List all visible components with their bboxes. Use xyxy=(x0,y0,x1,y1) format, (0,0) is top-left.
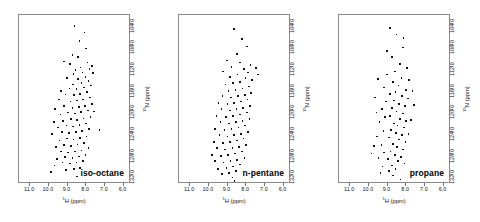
data-point xyxy=(70,101,72,103)
data-point xyxy=(73,139,75,141)
data-point xyxy=(402,113,404,115)
panel-label: n-pentane xyxy=(242,168,284,178)
data-point xyxy=(221,173,223,175)
data-point xyxy=(66,125,68,127)
data-point xyxy=(374,97,376,99)
data-point xyxy=(63,105,65,107)
data-point xyxy=(89,68,91,70)
data-point xyxy=(247,72,249,74)
data-point xyxy=(376,136,378,138)
data-point xyxy=(87,110,89,112)
y-tick-label: 132.0 xyxy=(289,170,295,184)
data-point xyxy=(220,121,222,123)
data-point xyxy=(235,121,237,123)
y-tick-label: 104.0 xyxy=(449,19,455,33)
x-tick-label: 9.0 xyxy=(63,186,71,192)
data-point xyxy=(66,138,68,140)
data-point xyxy=(60,151,62,153)
data-point xyxy=(81,130,83,132)
panel-label: propane xyxy=(410,168,444,178)
data-point xyxy=(62,162,64,164)
data-point xyxy=(401,77,403,79)
spectrum-panel-iso-octane: iso-octane11.010.09.08.07.06.01H (ppm)10… xyxy=(0,0,160,222)
data-point xyxy=(76,100,78,102)
data-point xyxy=(413,104,415,106)
data-point xyxy=(404,163,406,165)
x-axis-tick-labels: 11.010.09.08.07.06.0 xyxy=(320,186,468,196)
data-point xyxy=(403,127,405,129)
data-point xyxy=(211,154,213,156)
data-point xyxy=(243,138,245,140)
data-point xyxy=(239,81,241,83)
data-point xyxy=(392,143,394,145)
data-point xyxy=(400,156,402,158)
data-point xyxy=(77,78,79,80)
y-axis-title: 15N (ppm) xyxy=(302,14,312,183)
data-point xyxy=(67,152,69,154)
data-point xyxy=(250,64,252,66)
data-point xyxy=(377,78,379,80)
data-point xyxy=(84,32,86,34)
data-point xyxy=(401,134,403,136)
data-point xyxy=(85,154,87,156)
data-point xyxy=(59,140,61,142)
y-tick-label: 116.0 xyxy=(129,84,135,98)
data-point xyxy=(383,130,385,132)
data-point xyxy=(218,102,220,104)
data-point xyxy=(61,131,63,133)
data-point xyxy=(378,157,380,159)
data-point xyxy=(83,118,85,120)
data-point xyxy=(398,85,400,87)
x-tick-label: 11.0 xyxy=(24,186,35,192)
data-point xyxy=(225,84,227,86)
data-point xyxy=(407,98,409,100)
data-point xyxy=(63,144,65,146)
data-point xyxy=(216,115,218,117)
data-point xyxy=(85,48,87,50)
data-point xyxy=(54,108,56,110)
data-point xyxy=(50,171,52,173)
data-point xyxy=(213,141,215,143)
data-point xyxy=(249,118,251,120)
y-tick-label: 124.0 xyxy=(449,127,455,141)
data-point xyxy=(410,119,412,121)
data-point xyxy=(72,126,74,128)
data-point xyxy=(79,40,81,42)
data-point xyxy=(399,63,401,65)
data-point xyxy=(92,72,94,74)
data-point xyxy=(255,67,257,69)
x-tick-label: 10.0 xyxy=(202,186,213,192)
data-point xyxy=(58,99,60,101)
spectrum-panel-propane: propane11.010.09.08.07.06.01H (ppm)104.0… xyxy=(320,0,480,222)
data-point xyxy=(244,94,246,96)
data-point xyxy=(247,131,249,133)
data-point xyxy=(231,66,233,68)
x-tick-label: 9.0 xyxy=(383,186,391,192)
data-point xyxy=(91,65,93,67)
data-point xyxy=(391,107,393,109)
data-point xyxy=(404,105,406,107)
data-point xyxy=(62,120,64,122)
data-point xyxy=(76,176,78,178)
data-point xyxy=(240,101,242,103)
data-point xyxy=(70,118,72,120)
data-point xyxy=(82,99,84,101)
data-point xyxy=(217,168,219,170)
data-point xyxy=(383,152,385,154)
data-point xyxy=(228,123,230,125)
data-point xyxy=(214,128,216,130)
data-point xyxy=(87,62,89,64)
data-point xyxy=(412,90,414,92)
data-point xyxy=(250,92,252,94)
y-tick-label: 128.0 xyxy=(449,149,455,163)
data-point xyxy=(392,175,394,177)
y-tick-label: 112.0 xyxy=(449,62,455,76)
data-point xyxy=(408,79,410,81)
data-point xyxy=(77,56,79,58)
data-point xyxy=(248,86,250,88)
data-point xyxy=(237,95,239,97)
data-point xyxy=(222,142,224,144)
data-point xyxy=(391,165,393,167)
data-point xyxy=(232,166,234,168)
data-point xyxy=(76,88,78,90)
